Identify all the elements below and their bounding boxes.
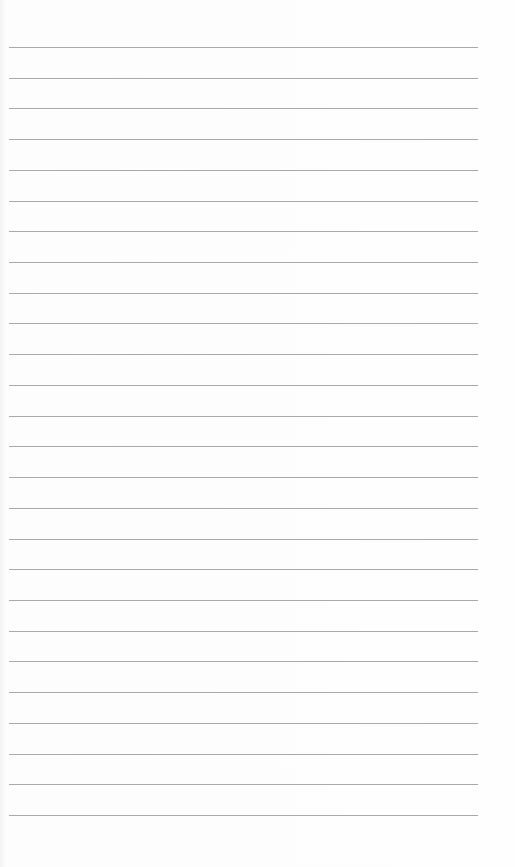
ruled-line bbox=[9, 446, 478, 447]
ruled-line bbox=[9, 416, 478, 417]
ruled-line bbox=[9, 108, 478, 109]
ruled-line bbox=[9, 385, 478, 386]
ruled-line bbox=[9, 293, 478, 294]
ruled-line bbox=[9, 47, 478, 48]
ruled-line bbox=[9, 754, 478, 755]
ruled-line bbox=[9, 78, 478, 79]
ruled-line bbox=[9, 569, 478, 570]
ruled-line bbox=[9, 815, 478, 816]
ruled-line bbox=[9, 539, 478, 540]
ruled-line bbox=[9, 323, 478, 324]
ruled-line bbox=[9, 139, 478, 140]
ruled-line bbox=[9, 600, 478, 601]
ruled-line bbox=[9, 354, 478, 355]
ruled-line bbox=[9, 477, 478, 478]
ruled-line bbox=[9, 170, 478, 171]
ruled-line bbox=[9, 661, 478, 662]
ruled-line bbox=[9, 231, 478, 232]
ruled-line bbox=[9, 692, 478, 693]
ruled-line bbox=[9, 262, 478, 263]
ruled-line bbox=[9, 201, 478, 202]
ruled-line bbox=[9, 723, 478, 724]
ruled-line bbox=[9, 508, 478, 509]
ruled-line bbox=[9, 784, 478, 785]
lined-paper-page bbox=[0, 0, 515, 867]
ruled-line bbox=[9, 631, 478, 632]
